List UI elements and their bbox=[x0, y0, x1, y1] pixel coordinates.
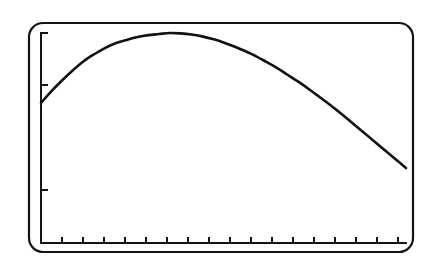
plot-canvas bbox=[0, 0, 437, 271]
figure-root bbox=[0, 0, 437, 271]
